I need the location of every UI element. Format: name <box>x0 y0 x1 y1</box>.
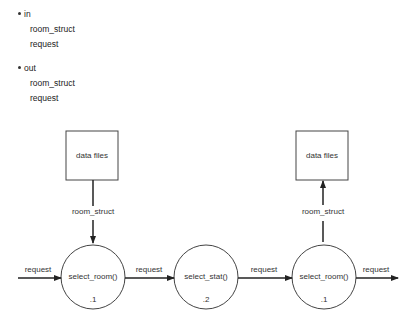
data-store-right: data files <box>296 131 348 180</box>
svg-text:select_room(): select_room() <box>300 272 349 281</box>
process-select-room-3: select_room() .1 <box>292 245 356 309</box>
data-store-left: data files <box>66 131 118 180</box>
flow-external-to-process1: request <box>18 265 61 278</box>
flow-store-to-process1: room_struct <box>72 180 115 243</box>
svg-text:request: request <box>136 265 163 274</box>
svg-text:room_struct: room_struct <box>72 207 115 216</box>
svg-text:.1: .1 <box>90 295 97 304</box>
process-select-room-1: select_room() .1 <box>61 245 125 309</box>
svg-text:data files: data files <box>306 151 338 160</box>
flow-process1-to-process2: request <box>125 265 174 278</box>
flow-process2-to-process3: request <box>238 265 292 278</box>
flow-process3-to-store: room_struct <box>302 181 345 242</box>
svg-text:.2: .2 <box>203 295 210 304</box>
data-flow-diagram: data files data files room_struct room_s… <box>0 0 415 322</box>
svg-text:.1: .1 <box>321 295 328 304</box>
svg-text:select_stat(): select_stat() <box>184 272 228 281</box>
svg-text:select_room(): select_room() <box>69 272 118 281</box>
svg-text:data files: data files <box>76 151 108 160</box>
flow-process3-to-external: request <box>356 265 398 278</box>
process-select-stat-2: select_stat() .2 <box>174 245 238 309</box>
svg-text:room_struct: room_struct <box>302 207 345 216</box>
svg-text:request: request <box>251 265 278 274</box>
svg-text:request: request <box>25 265 52 274</box>
svg-text:request: request <box>363 265 390 274</box>
